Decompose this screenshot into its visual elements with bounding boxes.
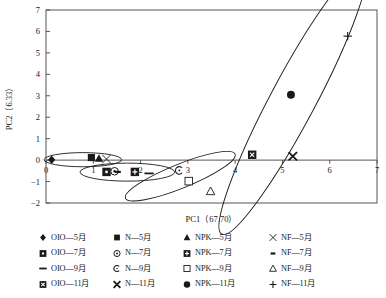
legend-item[interactable]: OIO—5月 bbox=[36, 232, 110, 243]
y-tick-label: −1 bbox=[31, 177, 40, 187]
legend-label: OIO—7月 bbox=[51, 248, 86, 258]
legend-item[interactable]: NF—7月 bbox=[266, 248, 346, 259]
small-dash-icon bbox=[266, 248, 280, 259]
bold-x-icon bbox=[110, 279, 124, 290]
data-point bbox=[102, 168, 110, 176]
filled-diamond-icon bbox=[36, 232, 50, 243]
data-point bbox=[95, 154, 103, 162]
legend-label: OIO—11月 bbox=[51, 279, 89, 289]
legend-label: OIO—9月 bbox=[51, 264, 86, 274]
y-tick-label: 1 bbox=[36, 134, 40, 144]
y-tick-label: 0 bbox=[36, 155, 40, 165]
legend-row: OIO—7月N—7月NPK—7月NF—7月 bbox=[36, 246, 366, 262]
axis-ticks: 01234567−2−101234567 bbox=[31, 5, 379, 208]
y-tick-label: 6 bbox=[36, 26, 40, 36]
legend-row: OIO—5月N—5月NPK—5月NF—5月 bbox=[36, 230, 366, 246]
legend-item[interactable]: N—9月 bbox=[110, 263, 180, 274]
cluster-ellipses bbox=[44, 0, 384, 245]
cluster-11yue bbox=[202, 0, 384, 245]
y-tick-label: 3 bbox=[36, 91, 40, 101]
data-point bbox=[88, 154, 95, 161]
legend-item[interactable]: NPK—9月 bbox=[180, 263, 266, 274]
legend-label: NF—11月 bbox=[281, 279, 315, 289]
legend-label: NPK—9月 bbox=[195, 264, 231, 274]
legend-label: N—9月 bbox=[125, 264, 151, 274]
legend-label: NPK—11月 bbox=[195, 279, 235, 289]
cross-x-icon bbox=[266, 232, 280, 243]
x-axis-title: PC1（67.70） bbox=[186, 214, 238, 224]
legend-item[interactable]: OIO—11月 bbox=[36, 279, 110, 290]
open-square-icon bbox=[180, 263, 194, 274]
open-circle-dot-icon bbox=[110, 248, 124, 259]
legend-item[interactable]: NF—5月 bbox=[266, 232, 346, 243]
y-tick-label: 4 bbox=[36, 69, 41, 79]
data-point bbox=[206, 187, 214, 195]
y-tick-label: 2 bbox=[36, 112, 40, 122]
legend-item[interactable]: N—11月 bbox=[110, 279, 180, 290]
legend-item[interactable]: OIO—7月 bbox=[36, 248, 110, 259]
y-tick-label: 7 bbox=[36, 5, 40, 15]
legend-item[interactable]: NPK—7月 bbox=[180, 248, 266, 259]
legend-item[interactable]: NPK—11月 bbox=[180, 279, 266, 290]
x-tick-label: 3 bbox=[186, 165, 190, 175]
legend-label: N—7月 bbox=[125, 248, 151, 258]
legend-row: OIO—9月N—9月NPK—9月NF—9月 bbox=[36, 261, 366, 277]
y-axis-title: PC2（6.33） bbox=[4, 83, 14, 131]
filled-circle-icon bbox=[180, 279, 194, 290]
data-point bbox=[131, 168, 139, 176]
legend-item[interactable]: NF—11月 bbox=[266, 279, 346, 290]
data-point bbox=[175, 167, 182, 175]
filled-square-dot-icon bbox=[36, 248, 50, 259]
data-point bbox=[289, 152, 297, 160]
data-point bbox=[343, 32, 351, 40]
square-plus-icon bbox=[180, 248, 194, 259]
y-tick-label: −2 bbox=[31, 198, 40, 208]
legend-item[interactable]: OIO—9月 bbox=[36, 263, 110, 274]
data-point bbox=[48, 155, 55, 163]
legend-label: OIO—5月 bbox=[51, 233, 86, 243]
x-tick-label: 0 bbox=[44, 165, 48, 175]
legend-item[interactable]: N—7月 bbox=[110, 248, 180, 259]
x-tick-label: 7 bbox=[375, 165, 379, 175]
dash-icon bbox=[36, 263, 50, 274]
legend-label: N—11月 bbox=[125, 279, 155, 289]
y-tick-label: 5 bbox=[36, 48, 40, 58]
legend-label: NF—5月 bbox=[281, 233, 312, 243]
cluster-9yue bbox=[121, 143, 240, 210]
chart-legend: OIO—5月N—5月NPK—5月NF—5月OIO—7月N—7月NPK—7月NF—… bbox=[36, 230, 366, 292]
legend-label: NPK—5月 bbox=[195, 233, 231, 243]
data-point bbox=[102, 155, 110, 163]
data-point bbox=[185, 177, 193, 185]
chart-page: 01234567−2−101234567 PC1（67.70）PC2（6.33）… bbox=[0, 0, 386, 298]
filled-square-x-icon bbox=[36, 279, 50, 290]
legend-label: NF—7月 bbox=[281, 248, 312, 258]
filled-triangle-icon bbox=[180, 232, 194, 243]
open-circle-c-icon bbox=[110, 263, 124, 274]
legend-item[interactable]: N—5月 bbox=[110, 232, 180, 243]
plus-icon bbox=[266, 279, 280, 290]
filled-square-icon bbox=[110, 232, 124, 243]
legend-item[interactable]: NPK—5月 bbox=[180, 232, 266, 243]
data-point bbox=[248, 151, 256, 159]
legend-item[interactable]: NF—9月 bbox=[266, 263, 346, 274]
open-triangle-icon bbox=[266, 263, 280, 274]
legend-row: OIO—11月N—11月NPK—11月NF—11月 bbox=[36, 277, 366, 293]
x-tick-label: 6 bbox=[328, 165, 332, 175]
legend-label: N—5月 bbox=[125, 233, 151, 243]
legend-label: NPK—7月 bbox=[195, 248, 231, 258]
data-point bbox=[287, 91, 295, 99]
legend-label: NF—9月 bbox=[281, 264, 312, 274]
